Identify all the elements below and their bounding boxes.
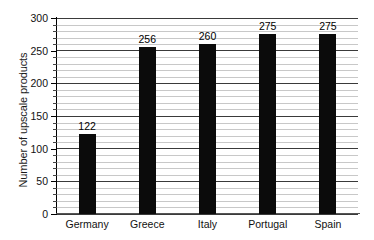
y-tick-minor: [53, 142, 57, 143]
bar: [79, 134, 96, 214]
y-tick-minor: [53, 109, 57, 110]
y-tick-label: 50: [18, 176, 48, 186]
gridline-major: [57, 18, 358, 19]
y-tick-major: [51, 83, 57, 84]
y-tick-label: 150: [18, 111, 48, 121]
y-tick-minor: [53, 136, 57, 137]
x-axis-category-label: Spain: [293, 218, 363, 230]
y-tick-label: 200: [18, 78, 48, 88]
y-tick-minor: [53, 25, 57, 26]
y-tick-minor: [53, 188, 57, 189]
y-tick-minor: [53, 168, 57, 169]
bar: [199, 44, 216, 214]
plot-area: [57, 18, 358, 214]
bar: [259, 34, 276, 214]
y-tick-minor: [53, 38, 57, 39]
bar-value-label: 122: [67, 121, 107, 132]
y-tick-minor: [53, 129, 57, 130]
y-tick-label: 300: [18, 13, 48, 23]
y-tick-minor: [53, 103, 57, 104]
bar: [319, 34, 336, 214]
y-tick-label: 0: [18, 209, 48, 219]
y-tick-minor: [53, 194, 57, 195]
y-tick-minor: [53, 44, 57, 45]
y-tick-minor: [53, 201, 57, 202]
bar: [139, 47, 156, 214]
y-tick-minor: [53, 90, 57, 91]
y-tick-major: [51, 214, 57, 215]
y-tick-major: [51, 116, 57, 117]
y-tick-minor: [53, 155, 57, 156]
y-tick-label: 250: [18, 46, 48, 56]
y-tick-minor: [53, 70, 57, 71]
y-tick-minor: [53, 123, 57, 124]
y-tick-minor: [53, 77, 57, 78]
y-tick-minor: [53, 64, 57, 65]
y-tick-major: [51, 51, 57, 52]
y-tick-minor: [53, 207, 57, 208]
bar-value-label: 260: [188, 31, 228, 42]
y-tick-label: 100: [18, 144, 48, 154]
bar-chart-figure: Number of upscale products 0501001502002…: [0, 0, 374, 240]
y-tick-major: [51, 149, 57, 150]
y-tick-minor: [53, 31, 57, 32]
y-tick-major: [51, 18, 57, 19]
y-tick-minor: [53, 96, 57, 97]
bar-value-label: 275: [248, 21, 288, 32]
bar-value-label: 256: [127, 34, 167, 45]
y-tick-minor: [53, 162, 57, 163]
bar-value-label: 275: [308, 21, 348, 32]
y-tick-minor: [53, 57, 57, 58]
y-tick-major: [51, 181, 57, 182]
y-tick-minor: [53, 175, 57, 176]
